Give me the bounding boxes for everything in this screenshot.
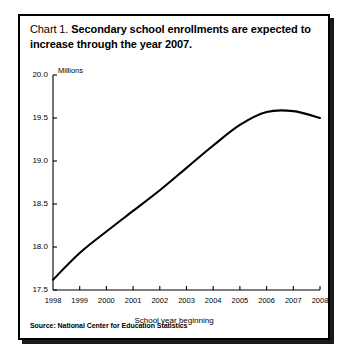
x-axis-ticks (80, 286, 320, 290)
x-tick-label: 2003 (172, 296, 202, 305)
chart-figure-frame: Chart 1. Secondary school enrollments ar… (18, 14, 330, 340)
plot-area: Millions 20.019.519.018.518.017.5 199819… (20, 16, 328, 338)
x-tick-label: 2001 (118, 296, 148, 305)
x-tick-label: 1999 (65, 296, 95, 305)
screenshot-canvas: Chart 1. Secondary school enrollments ar… (0, 0, 346, 354)
y-tick-label: 18.0 (22, 242, 48, 251)
x-tick-label: 2008 (305, 296, 335, 305)
axes-lines (53, 75, 320, 290)
y-axis-ticks (53, 75, 57, 290)
y-tick-label: 19.5 (22, 113, 48, 122)
source-note: Source: National Center for Education St… (30, 322, 187, 329)
x-tick-label: 2005 (225, 296, 255, 305)
x-tick-label: 1998 (38, 296, 68, 305)
y-tick-label: 18.5 (22, 199, 48, 208)
y-tick-label: 20.0 (22, 70, 48, 79)
x-tick-label: 2006 (252, 296, 282, 305)
x-tick-label: 2000 (91, 296, 121, 305)
y-tick-label: 17.5 (22, 285, 48, 294)
x-tick-label: 2004 (198, 296, 228, 305)
enrollment-line-series (53, 110, 320, 279)
chart-canvas (20, 16, 328, 338)
x-tick-label: 2002 (145, 296, 175, 305)
x-tick-label: 2007 (278, 296, 308, 305)
y-tick-label: 19.0 (22, 156, 48, 165)
